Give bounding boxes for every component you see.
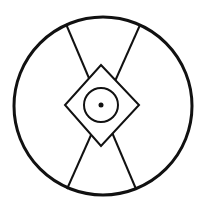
symbol-diagram — [0, 0, 206, 208]
center-dot — [99, 103, 104, 108]
